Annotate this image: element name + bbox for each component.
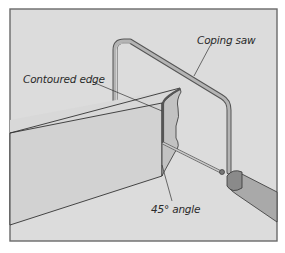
label-coping-saw: Coping saw — [197, 34, 256, 46]
label-contoured-edge: Contoured edge — [23, 73, 105, 85]
label-angle: 45° angle — [151, 203, 200, 215]
